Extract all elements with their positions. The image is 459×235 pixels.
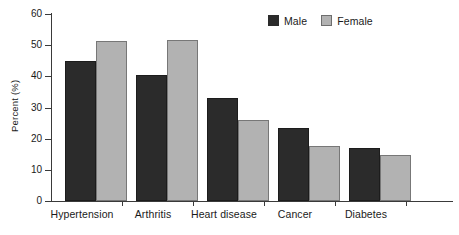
x-axis-line: [51, 201, 453, 202]
y-tick-0: 0: [45, 201, 51, 202]
bar-female-1: [167, 40, 198, 201]
bar-female-2: [238, 120, 269, 201]
bar-chart: Male Female Percent (%) 0 10 20 30 40 50…: [0, 0, 459, 235]
bar-female-4: [380, 155, 411, 201]
bar-group-2: [207, 14, 269, 201]
bar-male-0: [65, 61, 96, 201]
x-tick-4: [335, 201, 336, 206]
bar-male-1: [136, 75, 167, 201]
bar-male-2: [207, 98, 238, 201]
bar-male-4: [349, 148, 380, 201]
bar-group-1: [136, 14, 198, 201]
y-axis-title: Percent (%): [9, 118, 20, 132]
y-tick-label-30: 30: [31, 102, 42, 113]
x-tick-1: [122, 201, 123, 206]
y-tick-label-0: 0: [36, 195, 42, 206]
bar-group-0: [65, 14, 127, 201]
x-tick-2: [193, 201, 194, 206]
y-tick-label-40: 40: [31, 70, 42, 81]
y-tick-label-20: 20: [31, 133, 42, 144]
bar-group-3: [278, 14, 340, 201]
x-tick-5: [406, 201, 407, 206]
x-tick-3: [264, 201, 265, 206]
y-tick-label-50: 50: [31, 39, 42, 50]
bar-group-4: [349, 14, 411, 201]
bar-female-0: [96, 41, 127, 201]
y-tick-label-60: 60: [31, 8, 42, 19]
x-category-label-4: Diabetes: [315, 208, 417, 220]
plot-area: [51, 14, 453, 201]
bar-female-3: [309, 146, 340, 201]
y-tick-label-10: 10: [31, 164, 42, 175]
bar-male-3: [278, 128, 309, 201]
